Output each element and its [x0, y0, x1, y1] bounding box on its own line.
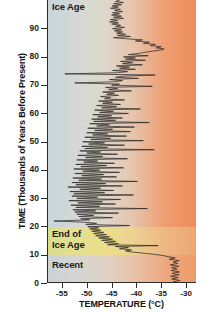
paleoclimate-temperature-chart: Ice Age End ofIce Age Recent 01020304050… — [0, 0, 206, 313]
y-axis-tick — [41, 28, 47, 29]
x-axis-tick-label: -45 — [99, 289, 125, 298]
y-axis-title: TIME (Thousands of Years Before Present) — [17, 31, 27, 251]
x-axis-title: TEMPERATURE (°C) — [47, 299, 196, 309]
x-axis-tick-label: -55 — [49, 289, 75, 298]
y-axis-tick — [41, 198, 47, 199]
y-axis-tick — [41, 226, 47, 227]
y-axis-tick — [41, 255, 47, 256]
x-axis-tick — [161, 283, 162, 288]
y-axis-tick-label: 10 — [9, 250, 39, 259]
annotation-end-of-ice-age: End ofIce Age — [52, 228, 85, 250]
x-axis-tick — [62, 283, 63, 288]
x-axis-tick — [112, 283, 113, 288]
y-axis-tick — [41, 142, 47, 143]
y-axis-tick-label: 0 — [9, 279, 39, 288]
y-axis-tick — [41, 113, 47, 114]
x-axis-tick-label: -50 — [74, 289, 100, 298]
plot-area: Ice Age End ofIce Age Recent — [47, 0, 196, 283]
annotation-recent: Recent — [52, 259, 83, 270]
annotation-end-of-ice-age-line1: End of — [52, 228, 81, 239]
x-axis-tick — [87, 283, 88, 288]
x-axis-tick-label: -30 — [173, 289, 199, 298]
y-axis-tick — [41, 170, 47, 171]
annotation-end-of-ice-age-line2: Ice Age — [52, 239, 85, 250]
y-axis-tick — [41, 85, 47, 86]
y-axis-tick — [41, 57, 47, 58]
x-axis-tick-label: -40 — [123, 289, 149, 298]
x-axis-tick — [186, 283, 187, 288]
x-axis-tick — [136, 283, 137, 288]
x-axis-tick-label: -35 — [148, 289, 174, 298]
y-axis-tick — [41, 283, 47, 284]
annotation-ice-age: Ice Age — [52, 1, 85, 12]
